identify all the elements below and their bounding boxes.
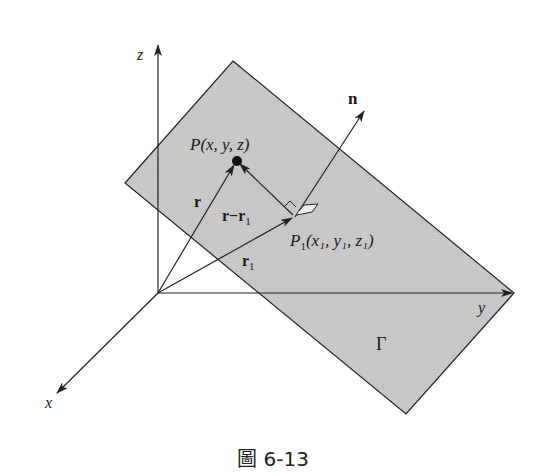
x-axis-label: x: [44, 394, 52, 411]
vector-r-label: r: [194, 193, 201, 210]
x-axis: [57, 293, 158, 393]
normal-vector-label: n: [348, 89, 358, 108]
point-p-label: P(x, y, z): [189, 135, 250, 154]
vector-plane-diagram: z y x P(x, y, z) P1(x₁, y₁, z₁) r r−r1 r…: [0, 0, 546, 476]
point-p: [232, 156, 242, 166]
figure-caption: 圖 6-13: [237, 447, 309, 471]
plane-gamma-label: Γ: [376, 334, 386, 354]
y-axis-label: y: [476, 299, 486, 317]
z-axis-label: z: [136, 46, 144, 63]
